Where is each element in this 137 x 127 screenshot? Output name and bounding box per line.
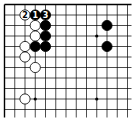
black-stone xyxy=(102,41,112,51)
black-stone-disc xyxy=(102,41,112,51)
black-stone xyxy=(40,41,50,51)
black-stone: 1 xyxy=(30,10,40,20)
move-number: 1 xyxy=(32,11,38,20)
star-point xyxy=(34,97,37,100)
go-board-diagram: 213 xyxy=(0,0,137,127)
black-stone-disc xyxy=(40,31,50,41)
star-point xyxy=(95,34,98,37)
black-stone-disc xyxy=(102,20,112,30)
black-stone-disc xyxy=(40,41,50,51)
black-stone: 3 xyxy=(40,10,50,20)
white-stone-disc xyxy=(30,20,40,30)
white-stone-disc xyxy=(30,31,40,41)
black-stone xyxy=(40,31,50,41)
black-stone xyxy=(30,41,40,51)
white-stone xyxy=(30,62,40,72)
black-stone xyxy=(40,20,50,30)
move-number: 3 xyxy=(43,11,49,20)
white-stone-disc xyxy=(20,94,30,104)
white-stone xyxy=(20,41,30,51)
white-stone-disc xyxy=(20,41,30,51)
white-stone-disc xyxy=(30,62,40,72)
white-stone-disc xyxy=(20,52,30,62)
black-stone-disc xyxy=(30,41,40,51)
black-stone xyxy=(102,20,112,30)
white-stone xyxy=(30,31,40,41)
black-stone-disc xyxy=(40,20,50,30)
white-stone xyxy=(20,52,30,62)
white-stone xyxy=(20,94,30,104)
star-point xyxy=(95,97,98,100)
move-number: 2 xyxy=(22,11,28,20)
white-stone xyxy=(30,20,40,30)
white-stone: 2 xyxy=(20,10,30,20)
